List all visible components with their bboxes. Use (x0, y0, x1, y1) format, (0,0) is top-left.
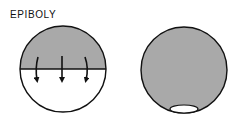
yolk-plug (170, 105, 198, 113)
shaded-cap (18, 24, 108, 69)
late-epiboly-cell (141, 27, 227, 113)
epiboly-diagram (0, 0, 239, 119)
early-epiboly-cell (18, 24, 108, 112)
